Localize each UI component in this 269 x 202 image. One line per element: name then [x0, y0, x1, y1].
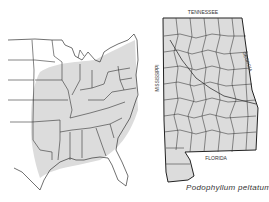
- label-mississippi: MISSISSIPPI: [155, 65, 160, 92]
- us-range-map: [8, 34, 138, 190]
- distribution-map-figure: TENNESSEE GEORGIA MISSISSIPPI FLORIDA: [0, 0, 269, 202]
- range-shading: [31, 40, 138, 178]
- label-tennessee: TENNESSEE: [188, 9, 219, 15]
- alabama-county-map: TENNESSEE GEORGIA MISSISSIPPI FLORIDA: [155, 9, 258, 182]
- species-caption: Podophyllum peltatum: [186, 183, 269, 192]
- label-florida: FLORIDA: [205, 155, 227, 161]
